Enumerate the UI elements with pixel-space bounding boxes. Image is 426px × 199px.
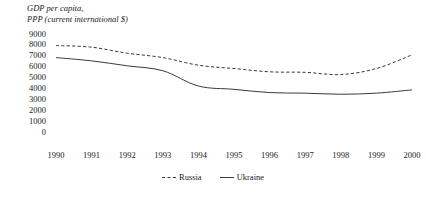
x-axis-tick-label: 1993	[154, 150, 171, 160]
x-axis-tick-label: 1994	[190, 150, 207, 160]
x-axis-tick-label: 1997	[297, 150, 314, 160]
x-axis-tick-label: 1996	[261, 150, 278, 160]
x-axis-tick-label: 1990	[48, 150, 65, 160]
legend-item-label: Ukraine	[237, 172, 264, 182]
chart-legend: RussiaUkraine	[0, 172, 426, 182]
x-axis-tick-label: 1995	[226, 150, 243, 160]
series-line-ukraine	[56, 58, 412, 95]
x-axis-tick-label: 1991	[83, 150, 100, 160]
legend-item-label: Russia	[179, 172, 202, 182]
chart-figure: GDP per capita, PPP (current internation…	[0, 0, 426, 199]
x-axis-tick-label: 1999	[368, 150, 385, 160]
x-axis-tick-label: 1992	[119, 150, 136, 160]
x-axis-tick-label: 2000	[404, 150, 421, 160]
legend-swatch-solid-icon	[220, 177, 234, 178]
legend-swatch-dashed-icon	[162, 177, 176, 178]
plot-area	[0, 0, 426, 199]
series-line-russia	[56, 46, 412, 75]
legend-item-russia[interactable]: Russia	[162, 172, 202, 182]
x-axis-tick-label: 1998	[332, 150, 349, 160]
x-axis: 1990199119921993199419951996199719981999…	[0, 150, 426, 164]
legend-item-ukraine[interactable]: Ukraine	[220, 172, 264, 182]
